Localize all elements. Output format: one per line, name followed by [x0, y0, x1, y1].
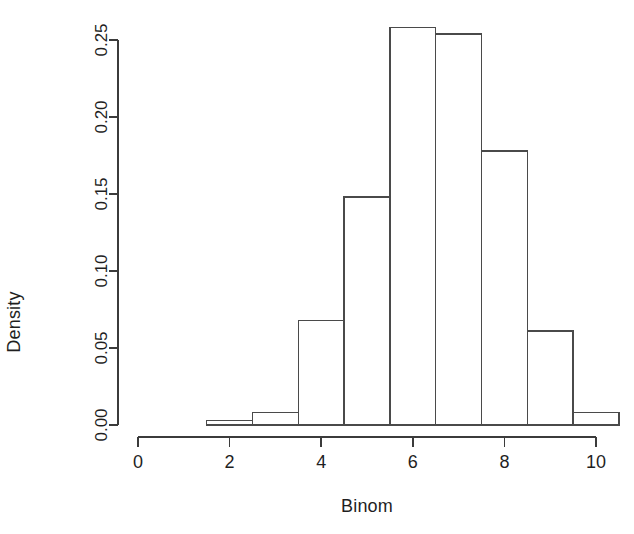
x-tick-labels: 0246810 [133, 452, 606, 472]
plot-canvas: 0.000.050.100.150.200.25 0246810 [0, 0, 634, 534]
histogram-bar [436, 34, 482, 425]
x-axis-tick-label: 2 [225, 452, 235, 472]
histogram-plot: 0.000.050.100.150.200.25 0246810 Density… [0, 0, 634, 534]
histogram-bar [573, 413, 619, 425]
histogram-bar [253, 413, 299, 425]
histogram-bar [298, 320, 344, 425]
y-axis-tick-label: 0.00 [92, 408, 111, 441]
y-axis-tick-label: 0.20 [92, 100, 111, 133]
y-axis-label: Density [0, 0, 28, 534]
y-axis-label-text: Density [4, 291, 25, 352]
histogram-bar [527, 331, 573, 425]
y-tick-labels: 0.000.050.100.150.200.25 [92, 23, 111, 441]
y-axis-tick-label: 0.15 [92, 177, 111, 210]
x-axis-tick-label: 4 [316, 452, 326, 472]
y-axis-tick-label: 0.05 [92, 331, 111, 364]
histogram-bar [390, 28, 436, 425]
x-axis-tick-label: 0 [133, 452, 143, 472]
x-axis-label: Binom [138, 496, 596, 517]
histogram-bar [207, 420, 253, 425]
bars-group [207, 28, 619, 425]
y-axis [109, 40, 118, 425]
x-axis [138, 437, 596, 447]
histogram-bar [482, 151, 528, 425]
x-axis-tick-label: 6 [408, 452, 418, 472]
y-axis-tick-label: 0.25 [92, 23, 111, 56]
y-axis-tick-label: 0.10 [92, 254, 111, 287]
x-axis-tick-label: 10 [586, 452, 606, 472]
x-axis-tick-label: 8 [499, 452, 509, 472]
histogram-bar [344, 197, 390, 425]
